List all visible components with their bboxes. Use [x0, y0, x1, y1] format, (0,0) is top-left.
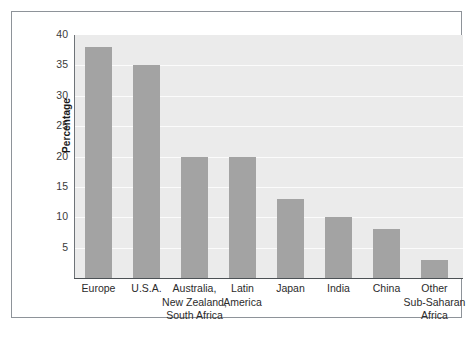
bar-usa[interactable] — [133, 65, 160, 278]
x-tick-label-other-sub-saharan-africa: Other Sub-Saharan Africa — [375, 282, 474, 323]
bar-india[interactable] — [325, 217, 352, 278]
y-tick-label-5: 5 — [48, 241, 68, 253]
y-axis-title: Percentage — [61, 66, 72, 186]
plot-area — [75, 35, 463, 278]
bar-japan[interactable] — [277, 199, 304, 278]
bar-china[interactable] — [373, 229, 400, 278]
bar-europe[interactable] — [85, 47, 112, 278]
y-axis-line — [74, 35, 75, 279]
bar-australia-nz-south-africa[interactable] — [181, 157, 208, 279]
y-tick-label-10: 10 — [48, 210, 68, 222]
x-axis-line — [74, 278, 463, 279]
chart-figure: 40 35 30 25 20 15 10 5 Percentage Europe… — [11, 11, 462, 318]
bar-latin-america[interactable] — [229, 157, 256, 279]
bar-other-sub-saharan-africa[interactable] — [421, 260, 448, 278]
y-tick-label-40: 40 — [48, 28, 68, 40]
